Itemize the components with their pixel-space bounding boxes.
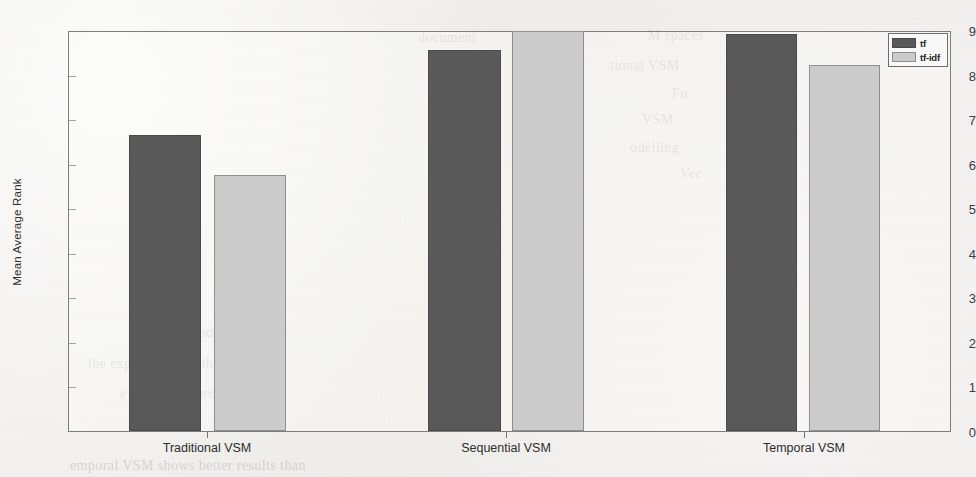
bleed-text-line: emporal VSM shows better results than — [70, 458, 306, 474]
legend-label-tf: tf — [920, 38, 926, 49]
bar-traditional-vsm-tf-idf[interactable] — [214, 175, 286, 431]
bar-sequential-vsm-tf-idf[interactable] — [512, 31, 584, 431]
legend-label-tf-idf: tf-idf — [920, 52, 940, 63]
y-axis-title: Mean Average Rank — [11, 137, 23, 327]
x-tick-mark — [804, 432, 805, 438]
legend-entry-tf[interactable]: tf — [892, 37, 943, 49]
bar-temporal-vsm-tf-idf[interactable] — [809, 65, 880, 431]
x-tick-mark — [207, 432, 208, 438]
x-tick-label-traditional-vsm: Traditional VSM — [163, 441, 251, 455]
scanned-figure-page: document M spaces tional VSM Fu VSM odel… — [0, 0, 976, 477]
legend-swatch-tf-icon — [892, 38, 916, 48]
legend-swatch-tf-idf-icon — [892, 52, 916, 62]
x-tick-label-temporal-vsm: Temporal VSM — [763, 441, 845, 455]
plot-area — [68, 31, 951, 432]
chart-legend[interactable]: tf tf-idf — [888, 33, 948, 67]
bar-temporal-vsm-tf[interactable] — [726, 34, 797, 431]
bar-sequential-vsm-tf[interactable] — [428, 50, 501, 431]
bar-traditional-vsm-tf[interactable] — [129, 135, 201, 431]
legend-entry-tf-idf[interactable]: tf-idf — [892, 51, 943, 63]
x-tick-label-sequential-vsm: Sequential VSM — [461, 441, 551, 455]
x-tick-mark — [506, 432, 507, 438]
